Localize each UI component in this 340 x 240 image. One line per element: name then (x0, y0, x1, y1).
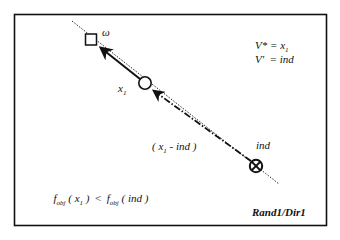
objective-condition: fobj ( x1 ) < fobj ( ind ) (48, 182, 148, 207)
arrow-x1-to-omega (101, 48, 140, 79)
edge-label-rest: - ind ) (167, 140, 197, 152)
omega-label: ω (102, 27, 110, 38)
ind-circle-cross-node (250, 160, 262, 172)
fobj-1-arg-open: ( x (66, 192, 80, 204)
edge-label-x1-minus-ind: ( x1 - ind ) (152, 141, 196, 155)
x1-label-subscript: 1 (123, 89, 127, 97)
edge-label-open: ( x (152, 140, 163, 152)
strategy-tag: Rand1/Dir1 (252, 207, 306, 218)
legend-v-star: V* = x1 (255, 40, 289, 54)
x1-label: x1 (118, 83, 126, 97)
legend-v-star-text: V* = x (255, 39, 285, 51)
fobj-2-arg: ( ind ) (119, 192, 149, 204)
omega-square-node (86, 34, 97, 45)
x1-circle-node (139, 77, 151, 89)
less-than-operator: < (89, 192, 106, 204)
legend-v-prime: V' = ind (255, 54, 294, 65)
ind-label: ind (256, 140, 270, 151)
fobj-1-sub: obj (57, 199, 66, 207)
fobj-2-sub: obj (110, 199, 119, 207)
